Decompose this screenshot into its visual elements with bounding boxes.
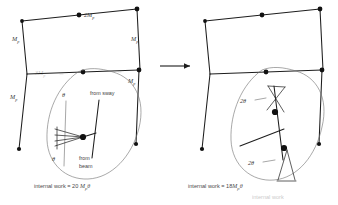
left-member-labels: Mp 2Mp Mp 3Mp Mp Mp [9, 11, 138, 102]
label-theta-bottom: θ [52, 155, 55, 162]
hinge-marker [80, 134, 86, 140]
right-panel-group: 2θ 2θ internal work = 18Mpθ [188, 7, 324, 191]
hinge-marker [20, 19, 24, 23]
note-from-sway: from sway [90, 90, 115, 96]
label-2theta-upper: 2θ [240, 97, 246, 104]
detail-reference-line [64, 101, 66, 166]
hinge-marker [320, 68, 325, 73]
label-2mp-top-beam: 2Mp [84, 11, 94, 20]
hinge-marker [134, 142, 138, 146]
hinge-marker [77, 13, 82, 18]
label-3mp-mid-beam: 3Mp [34, 69, 45, 78]
right-detail-wedge-lower-b [287, 150, 295, 180]
right-caption: internal work = 18Mpθ [188, 183, 243, 191]
left-rotation-detail [55, 100, 99, 166]
note-from-beam-line2: beam [79, 163, 93, 169]
hinge-marker [272, 109, 278, 115]
right-rotation-detail [240, 86, 296, 181]
hinge-marker [200, 147, 204, 151]
label-mp-upper-right-column: Mp [130, 35, 138, 44]
label-mp-upper-left-column: Mp [11, 35, 19, 44]
right-detail-member-lower [240, 129, 284, 146]
right-detail-bubble [231, 67, 324, 180]
left-caption: internal work = 20 Mpθ [34, 183, 90, 191]
label-2theta-lower: 2θ [248, 159, 254, 166]
label-theta-top: θ [62, 91, 65, 98]
hinge-marker [281, 145, 287, 151]
note-from-beam-line1: from [79, 155, 90, 161]
arrow-head [184, 63, 190, 69]
figure-bottom-partial-text: internal work [252, 194, 284, 200]
collapse-mechanism-figure: θ θ from sway from beam Mp 2Mp Mp 3Mp [0, 0, 338, 205]
label-mp-lower-left-column: Mp [9, 93, 17, 102]
left-detail-bubble [47, 69, 141, 179]
right-detail-leader-upper [255, 98, 266, 100]
detail-member-from-sway [92, 100, 99, 158]
hinge-marker [137, 68, 142, 73]
hinge-marker [318, 7, 323, 12]
right-upper-right-column [320, 9, 323, 70]
right-detail-wedge-upper-top [268, 86, 285, 87]
right-upper-left-column [205, 21, 210, 74]
hinge-marker [260, 13, 265, 18]
transition-arrow [160, 63, 190, 69]
detail-fan-line-d [55, 137, 83, 146]
label-mp-lower-right-column: Mp [127, 77, 135, 86]
hinge-marker [203, 19, 207, 23]
right-lower-left-column [202, 74, 210, 149]
left-upper-frame [22, 9, 140, 74]
hinge-marker [135, 7, 140, 12]
left-lower-left-column [19, 74, 27, 149]
hinge-marker [264, 70, 269, 75]
hinge-marker [17, 147, 21, 151]
left-panel-group: θ θ from sway from beam Mp 2Mp Mp 3Mp [9, 7, 141, 191]
left-upper-left-column [22, 21, 27, 74]
detail-fan-line-c [55, 137, 83, 141]
right-detail-leader-lower [263, 160, 275, 162]
figure-root: θ θ from sway from beam Mp 2Mp Mp 3Mp [0, 0, 338, 205]
